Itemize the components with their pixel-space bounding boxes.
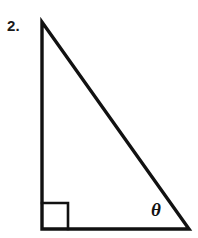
right-triangle-diagram	[0, 0, 198, 238]
right-triangle-figure: 2. θ	[0, 0, 198, 238]
theta-angle-label: θ	[145, 199, 167, 221]
triangle-outline	[42, 22, 189, 229]
right-angle-square-marker	[42, 203, 68, 229]
